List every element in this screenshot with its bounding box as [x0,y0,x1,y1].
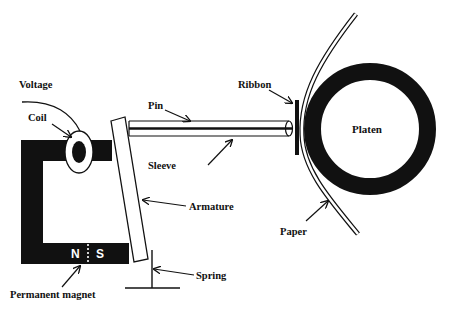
coil [65,131,93,173]
pin-sleeve [129,121,293,136]
ribbon [295,100,299,155]
platen-label: Platen [352,123,382,135]
paper-label: Paper [280,226,307,237]
pin-label: Pin [148,100,163,111]
spring-label: Spring [196,270,227,281]
armature [111,117,148,262]
coil-label: Coil [28,112,47,123]
north-pole-label: N [71,247,80,261]
print-head-diagram: N S Vo [0,0,449,313]
voltage-label: Voltage [19,79,53,90]
ribbon-label: Ribbon [238,79,271,90]
armature-label: Armature [189,201,234,212]
sleeve-label: Sleeve [148,160,176,171]
south-pole-label: S [96,247,104,261]
permanent-magnet-label: Permanent magnet [10,289,96,300]
